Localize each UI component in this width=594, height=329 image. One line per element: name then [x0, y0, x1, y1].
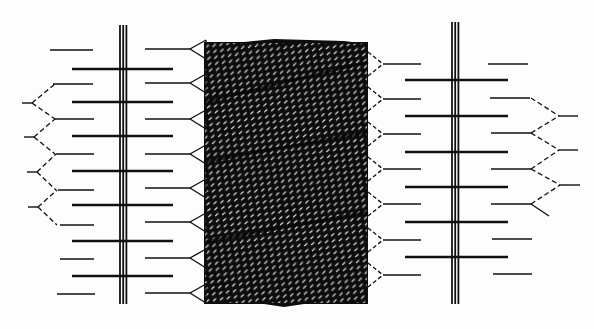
- left-link-lower: [190, 83, 206, 93]
- core-block: [204, 39, 368, 307]
- left-link-lower: [190, 154, 206, 164]
- fiber-diagram: [0, 0, 594, 329]
- right-link-upper: [368, 192, 383, 204]
- right-chevron-lower: [531, 185, 560, 204]
- right-chevron-upper: [531, 98, 559, 116]
- left-link-upper: [190, 40, 206, 49]
- left-link-upper: [190, 110, 206, 119]
- left-link-upper: [190, 213, 206, 222]
- right-chevron-upper: [531, 169, 560, 185]
- left-chevron-upper: [37, 154, 56, 172]
- left-link-lower: [190, 222, 206, 232]
- right-link-lower: [368, 240, 383, 252]
- left-chevron-upper: [34, 119, 55, 137]
- right-link-lower: [368, 275, 383, 287]
- diagram-canvas: [0, 0, 594, 329]
- right-link-lower: [368, 169, 383, 181]
- core-bottom-edge: [264, 304, 304, 307]
- left-chevron-upper: [38, 190, 57, 207]
- right-link-upper: [368, 87, 383, 99]
- left-link-upper: [190, 249, 206, 258]
- left-chevron-lower: [32, 103, 55, 119]
- left-link-lower: [190, 293, 206, 303]
- right-chevron-lower: [531, 116, 559, 133]
- right-link-upper: [368, 157, 383, 169]
- left-link-upper: [190, 179, 206, 188]
- left-link-upper: [190, 145, 206, 154]
- left-link-lower: [190, 188, 206, 198]
- left-link-lower: [190, 119, 206, 129]
- right-spine: [452, 22, 458, 304]
- right-link-upper: [368, 122, 383, 134]
- left-chevron-lower: [34, 137, 55, 154]
- left-chevron-lower: [38, 207, 57, 225]
- right-link-lower: [368, 64, 383, 76]
- right-link-lower: [368, 99, 383, 111]
- left-spine: [120, 25, 126, 304]
- left-link-lower: [190, 258, 206, 268]
- left-chevron-lower: [37, 172, 56, 190]
- right-link-upper: [368, 52, 383, 64]
- right-chevron-upper: [531, 133, 559, 150]
- left-link-upper: [190, 284, 206, 293]
- right-link-upper: [368, 228, 383, 240]
- right-chevron-lower: [531, 150, 559, 169]
- left-link-upper: [190, 74, 206, 83]
- right-link-lower: [368, 134, 383, 146]
- left-link-lower: [190, 49, 206, 59]
- right-link-upper: [368, 263, 383, 275]
- left-chevron-upper: [32, 84, 55, 103]
- right-end-fork: [531, 204, 549, 216]
- right-link-lower: [368, 204, 383, 216]
